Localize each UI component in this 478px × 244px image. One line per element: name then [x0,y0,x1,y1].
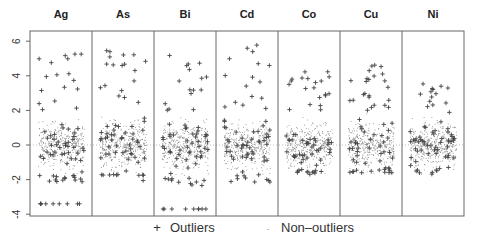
panel-title: Cd [240,8,255,20]
y-tick-label: -4 [11,209,22,218]
panel-as [98,48,148,182]
panel-title: As [116,8,130,20]
legend-label-outliers: Outliers [170,220,215,235]
legend-label-nonoutliers: Non–outliers [281,220,354,235]
panel-title: Ag [54,8,69,20]
panel-cu [347,63,395,175]
y-tick-label: 0 [11,142,22,148]
panel-bi [161,53,210,211]
plus-marker-icon: + [150,220,164,235]
scatter-chart: AgAsBiCdCoCuNi6420-2-4 [0,0,478,244]
panel-ag [37,52,86,206]
panel-title: Cu [364,8,379,20]
panel-title: Ni [428,8,439,20]
y-tick-label: 4 [11,73,22,79]
panel-title: Co [302,8,317,20]
plot-frame [30,31,464,216]
panel-ni [408,82,457,177]
dot-marker-icon: . [261,223,275,232]
legend: + Outliers . Non–outliers [0,220,478,240]
y-tick-label: 6 [11,38,22,44]
legend-item-outliers: + Outliers [150,220,215,235]
y-tick-label: -2 [11,175,22,184]
legend-item-nonoutliers: . Non–outliers [261,220,354,235]
panel-co [284,70,334,177]
panel-title: Bi [180,8,191,20]
panel-cd [222,43,272,184]
y-tick-label: 2 [11,107,22,113]
